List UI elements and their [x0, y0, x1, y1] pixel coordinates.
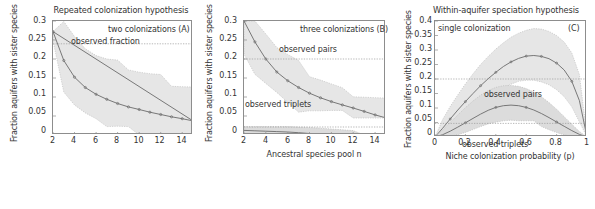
panel-c: Within-aquifer speciation hypothesis Fra…: [396, 0, 595, 209]
panel-c-plot-area: [434, 20, 586, 136]
panel-b-tag: three colonizations (B): [300, 25, 388, 34]
panel-b-observed-triplets-label: observed triplets: [245, 100, 311, 109]
panel-a-xtick: 2: [45, 136, 60, 145]
panel-b-chart: [244, 21, 385, 134]
panel-a-xtick: 10: [131, 136, 146, 145]
panel-b-ytick: 0.15: [213, 71, 237, 80]
panel-c-title: Within-aquifer speciation hypothesis: [422, 5, 590, 15]
panel-a-ytick: 0.3: [22, 16, 46, 25]
panel-c-ytick: 0.4: [408, 16, 432, 25]
panel-b-ytick: 0: [213, 126, 237, 135]
panel-a: Repeated colonization hypothesis Fractio…: [0, 0, 200, 209]
three-panel-figure: Repeated colonization hypothesis Fractio…: [0, 0, 595, 209]
panel-a-tag: two colonizations (A): [108, 25, 190, 34]
panel-c-ytick: 0.05: [408, 114, 432, 123]
panel-c-xtick: 1: [579, 138, 594, 147]
panel-b-ytick: 0.25: [213, 34, 237, 43]
panel-c-ytick: 0: [408, 128, 432, 137]
panel-b-ytick: 0.2: [213, 52, 237, 61]
panel-a-xtick: 6: [88, 136, 103, 145]
panel-a-observed-fraction-label: observed fraction: [71, 37, 140, 46]
panel-a-xtick: 8: [109, 136, 124, 145]
panel-c-observed-triplets-label: observed triplets: [462, 140, 528, 149]
panel-a-ytick: 0.1: [22, 89, 46, 98]
panel-c-observed-pairs-label: observed pairs: [484, 90, 542, 99]
panel-a-xtick: 14: [174, 136, 189, 145]
panel-a-xtick: 12: [152, 136, 167, 145]
panel-b-xtick: 6: [280, 136, 295, 145]
panel-b-ytick: 0.1: [213, 89, 237, 98]
panel-c-ytick: 0.3: [408, 44, 432, 53]
panel-c-tag: (C): [568, 24, 580, 33]
panel-a-y-axis-label: Fraction aquifers with sister species: [10, 4, 19, 142]
panel-c-ytick: 0.15: [408, 86, 432, 95]
panel-c-ytick: 0.1: [408, 100, 432, 109]
panel-c-subtag: single colonization: [438, 24, 510, 33]
panel-b-ytick: 0.3: [213, 16, 237, 25]
panel-b-xtick: 10: [323, 136, 338, 145]
panel-a-ytick: 0.25: [22, 34, 46, 43]
panel-a-ytick: 0: [22, 126, 46, 135]
panel-b-plot-area: [243, 20, 385, 134]
panel-c-x-axis-label: Niche colonization probability (p): [434, 152, 586, 161]
panel-c-ytick: 0.2: [408, 72, 432, 81]
panel-b-observed-pairs-label: observed pairs: [279, 45, 337, 54]
panel-a-title: Repeated colonization hypothesis: [46, 5, 196, 15]
panel-b-xtick: 14: [367, 136, 382, 145]
panel-b-xtick: 2: [236, 136, 251, 145]
panel-a-ytick: 0.2: [22, 52, 46, 61]
panel-c-xtick: 0: [427, 138, 442, 147]
panel-c-chart: [435, 21, 586, 136]
panel-c-xtick: 0.8: [548, 138, 563, 147]
panel-a-ytick: 0.05: [22, 107, 46, 116]
panel-a-xtick: 4: [66, 136, 81, 145]
panel-a-ytick: 0.15: [22, 71, 46, 80]
panel-b-xtick: 4: [258, 136, 273, 145]
panel-c-ytick: 0.25: [408, 58, 432, 67]
panel-b-xtick: 8: [301, 136, 316, 145]
panel-c-ytick: 0.35: [408, 30, 432, 39]
panel-b: Fraction aquifers with sister species 0.…: [197, 0, 397, 209]
panel-b-x-axis-label: Ancestral species pool n: [243, 150, 385, 159]
panel-b-ytick: 0.05: [213, 107, 237, 116]
panel-b-xtick: 12: [345, 136, 360, 145]
